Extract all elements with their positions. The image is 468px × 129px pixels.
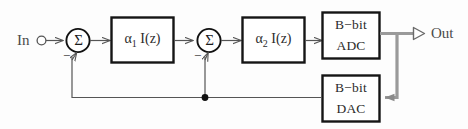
input-terminal-circle (37, 36, 46, 45)
junction-dot (202, 94, 209, 101)
block-diagram-graphics (0, 0, 468, 129)
summing-node-1-symbol: Σ (71, 33, 86, 48)
integrator1-subscript: 1 (132, 38, 137, 49)
block-adc-label-line1: B−bit (323, 18, 380, 32)
integrator2-expr: I(z) (271, 31, 291, 46)
summing-node-2-symbol: Σ (202, 33, 217, 48)
block-integrator2-label: α2 I(z) (243, 32, 305, 49)
summing-node-2-minus-sign: − (194, 49, 201, 62)
block-integrator1-label: α1 I(z) (112, 32, 174, 49)
integrator2-subscript: 2 (263, 38, 268, 49)
block-dac-label-line2: DAC (323, 102, 380, 116)
integrator1-expr: I(z) (140, 31, 160, 46)
block-adc-label-line2: ADC (323, 39, 380, 53)
block-dac-label-line1: B−bit (323, 81, 380, 95)
bus-adc-to-dac (385, 34, 397, 98)
integrator2-coef: α (255, 31, 262, 46)
output-label: Out (431, 26, 454, 41)
summing-node-1-minus-sign: − (63, 49, 70, 62)
diagram-canvas: In Out Σ − Σ − α1 I(z) α2 I(z) B−bit ADC… (0, 0, 468, 129)
wire-feedback-riser-sum2 (205, 53, 208, 60)
wire-feedback-to-sum1 (72, 53, 77, 60)
input-label: In (17, 33, 30, 48)
integrator1-coef: α (124, 31, 131, 46)
output-terminal-glyph (414, 28, 425, 40)
